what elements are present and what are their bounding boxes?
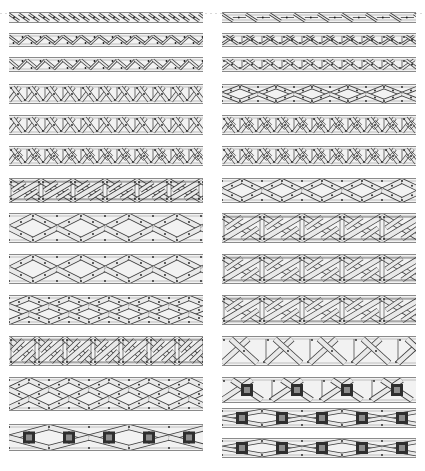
knotwork-band-l9 xyxy=(9,254,203,284)
knotwork-band-r10 xyxy=(222,295,416,325)
knot-loop-pattern-icon xyxy=(222,116,416,134)
knot-square-pattern-icon xyxy=(222,214,416,242)
twist-offset-pattern-icon xyxy=(9,58,203,71)
knotwork-band-l2 xyxy=(9,33,203,47)
knotwork-band-l6 xyxy=(9,146,203,166)
knot-key-pattern-icon xyxy=(222,378,416,402)
twist-single-pattern-icon xyxy=(9,13,203,22)
knotwork-band-l12 xyxy=(9,377,203,411)
knotwork-band-r1 xyxy=(222,12,416,23)
clipped-caption-line xyxy=(0,0,425,3)
twist-gap-pattern-icon xyxy=(222,13,416,22)
knot-square-pattern-icon xyxy=(9,337,203,365)
knot-key-pattern-icon xyxy=(9,116,203,134)
plait-3-pattern-icon xyxy=(9,425,203,450)
plait-3-pattern-icon xyxy=(222,439,416,457)
knotwork-band-l5 xyxy=(9,115,203,135)
knotwork-band-l7 xyxy=(9,178,203,203)
knotwork-band-l11 xyxy=(9,336,203,366)
knotwork-band-r13 xyxy=(222,408,416,428)
knotwork-band-r12 xyxy=(222,377,416,403)
knotwork-band-r11 xyxy=(222,336,416,366)
plait-3-pattern-icon xyxy=(9,214,203,242)
knot-key-pattern-icon xyxy=(222,337,416,365)
knot-key-pattern-icon xyxy=(222,58,416,71)
plait-3-pattern-icon xyxy=(222,179,416,202)
knot-square-pattern-icon xyxy=(222,296,416,324)
plait-4-pattern-icon xyxy=(9,378,203,410)
knotwork-band-r3 xyxy=(222,57,416,72)
knot-key-pattern-icon xyxy=(9,85,203,103)
knotwork-band-l1 xyxy=(9,12,203,23)
twist-offset-pattern-icon xyxy=(9,34,203,46)
knot-loop-pattern-icon xyxy=(222,147,416,165)
knotwork-band-r2 xyxy=(222,33,416,47)
knot-square-pattern-icon xyxy=(9,179,203,202)
knotwork-band-r5 xyxy=(222,115,416,135)
knotwork-band-l3 xyxy=(9,57,203,72)
knotwork-band-r14 xyxy=(222,438,416,458)
knotwork-band-r8 xyxy=(222,213,416,243)
knotwork-band-r9 xyxy=(222,254,416,284)
knotwork-band-l4 xyxy=(9,84,203,104)
knotwork-band-r6 xyxy=(222,146,416,166)
knot-loop-pattern-icon xyxy=(9,147,203,165)
knot-key-pattern-icon xyxy=(222,34,416,46)
plait-4-pattern-icon xyxy=(9,296,203,324)
knot-square-pattern-icon xyxy=(222,255,416,283)
knotwork-band-r4 xyxy=(222,84,416,104)
knotwork-band-l13 xyxy=(9,424,203,451)
knotwork-band-r7 xyxy=(222,178,416,203)
knotwork-band-l10 xyxy=(9,295,203,325)
plait-3-pattern-icon xyxy=(222,85,416,103)
plait-3-pattern-icon xyxy=(9,255,203,283)
plait-3-pattern-icon xyxy=(222,409,416,427)
knotwork-band-l8 xyxy=(9,213,203,243)
